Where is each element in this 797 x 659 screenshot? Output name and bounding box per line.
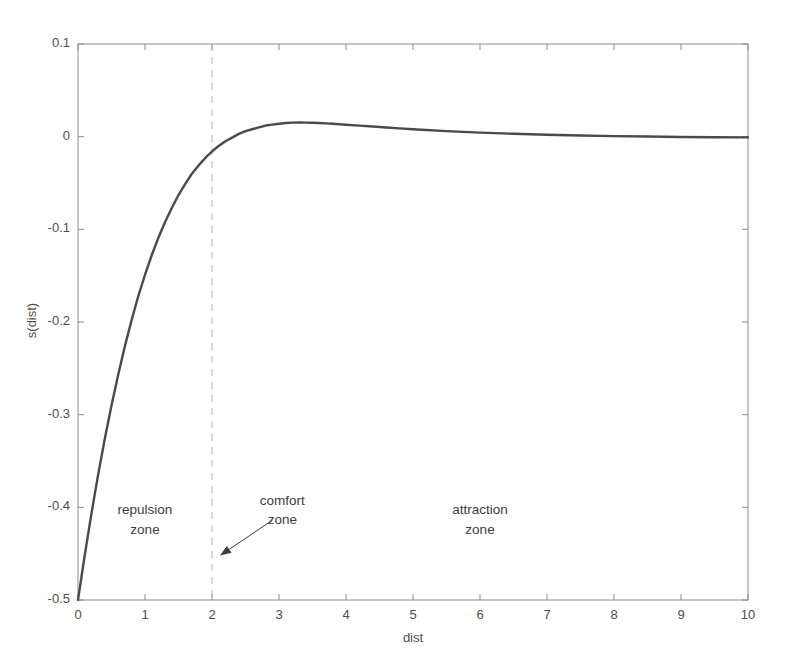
x-tick-label: 8 [594,607,634,622]
x-tick-label: 9 [661,607,701,622]
y-axis-title: s(dist) [24,281,39,361]
y-tick-label: -0.1 [28,220,70,235]
repulsion-zone-label: repulsionzone [75,500,215,539]
x-tick-label: 10 [728,607,768,622]
y-tick-label: -0.5 [28,591,70,606]
repulsion-zone-line: repulsion [118,502,173,517]
figure-page: 012345678910 0.10-0.1-0.2-0.3-0.4-0.5 di… [0,0,797,659]
comfort-zone-line: comfort [260,493,305,508]
repulsion-zone-line: zone [130,522,159,537]
attraction-zone-label: attractionzone [410,500,550,539]
x-tick-label: 1 [125,607,165,622]
attraction-zone-line: attraction [452,502,508,517]
x-axis-title: dist [353,630,473,645]
comfort-zone-line: zone [268,512,297,527]
y-tick-label: -0.4 [28,498,70,513]
plot-svg [0,0,797,659]
x-tick-label: 5 [393,607,433,622]
y-tick-label: -0.3 [28,406,70,421]
comfort-zone-label: comfortzone [212,491,352,530]
y-tick-label: 0.1 [28,35,70,50]
x-tick-label: 0 [58,607,98,622]
y-tick-label: 0 [28,128,70,143]
x-tick-label: 3 [259,607,299,622]
x-tick-label: 4 [326,607,366,622]
attraction-zone-line: zone [465,522,494,537]
x-tick-label: 7 [527,607,567,622]
x-tick-label: 2 [192,607,232,622]
x-tick-label: 6 [460,607,500,622]
